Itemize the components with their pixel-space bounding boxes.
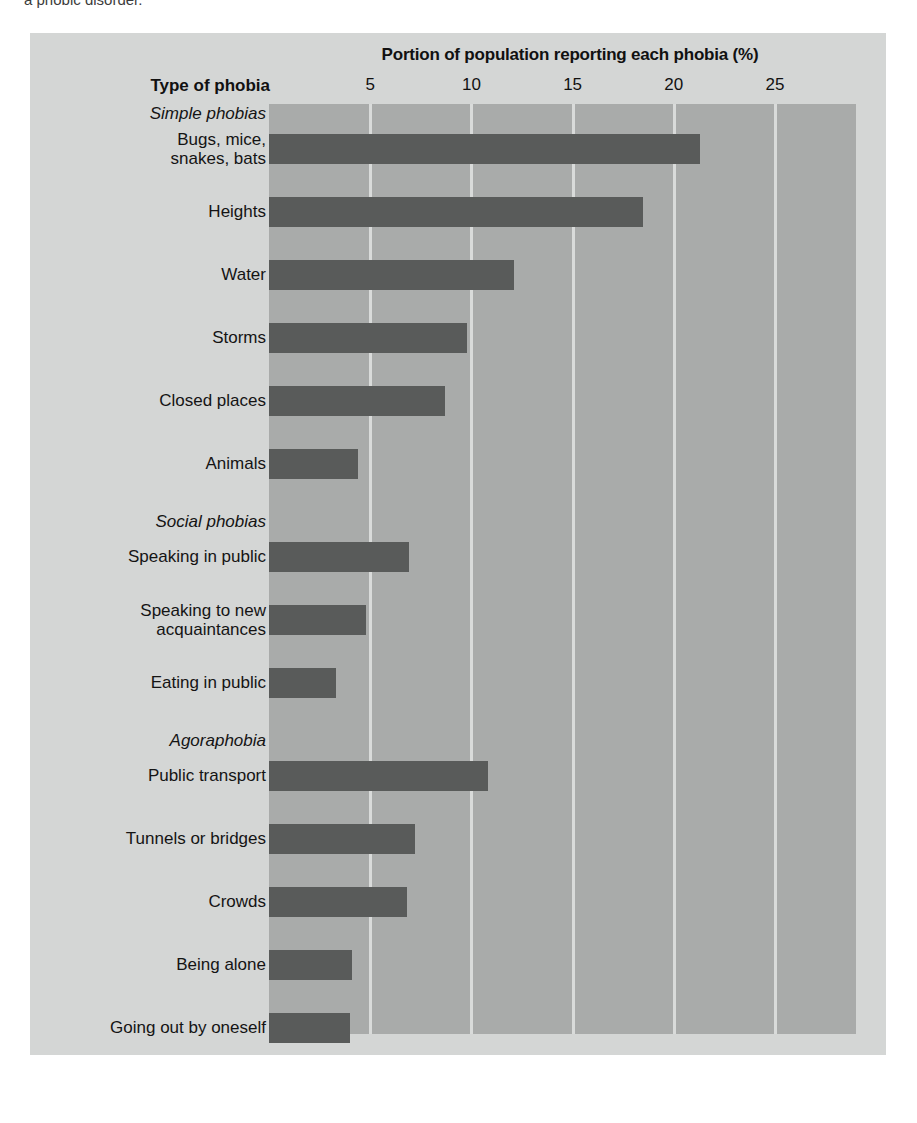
bar-row-label: Public transport xyxy=(6,766,266,785)
group-label-social-phobias: Social phobias xyxy=(6,512,266,532)
bar xyxy=(269,605,366,635)
bar-row: Being alone xyxy=(30,950,886,980)
x-axis-tick-labels: 510152025 xyxy=(30,75,886,97)
bar-row-label: Water xyxy=(6,265,266,284)
x-tick-label-25: 25 xyxy=(766,75,785,95)
chart-title: Portion of population reporting each pho… xyxy=(270,45,870,65)
x-tick-label-10: 10 xyxy=(462,75,481,95)
bar-row-label: Eating in public xyxy=(6,673,266,692)
page-top-cropped-text: a phobic disorder. xyxy=(0,0,917,14)
group-heading-row: Social phobias xyxy=(30,512,886,534)
bar-row-label: Going out by oneself xyxy=(6,1018,266,1037)
bar-row: Closed places xyxy=(30,386,886,416)
bar-row: Crowds xyxy=(30,887,886,917)
bar-row: Bugs, mice, snakes, bats xyxy=(30,134,886,164)
bar-row-label: Crowds xyxy=(6,892,266,911)
x-tick-label-5: 5 xyxy=(365,75,374,95)
bar xyxy=(269,386,445,416)
bar xyxy=(269,134,700,164)
bar-row: Speaking to new acquaintances xyxy=(30,605,886,635)
bar-row: Heights xyxy=(30,197,886,227)
bar-row-label: Bugs, mice, snakes, bats xyxy=(6,130,266,168)
bar xyxy=(269,260,514,290)
bar xyxy=(269,761,488,791)
bar-row-label: Animals xyxy=(6,454,266,473)
bar-row-label: Tunnels or bridges xyxy=(6,829,266,848)
bar xyxy=(269,197,643,227)
bar-row: Animals xyxy=(30,449,886,479)
bar-rows-container: Simple phobiasBugs, mice, snakes, batsHe… xyxy=(30,104,886,1034)
bar-row: Water xyxy=(30,260,886,290)
bar xyxy=(269,668,336,698)
x-tick-label-20: 20 xyxy=(664,75,683,95)
bar xyxy=(269,824,415,854)
bar-row-label: Storms xyxy=(6,328,266,347)
bar xyxy=(269,950,352,980)
group-heading-row: Agoraphobia xyxy=(30,731,886,753)
bar-row: Going out by oneself xyxy=(30,1013,886,1043)
bar-row: Public transport xyxy=(30,761,886,791)
bar xyxy=(269,542,409,572)
bar-row: Storms xyxy=(30,323,886,353)
bar-row-label: Speaking in public xyxy=(6,547,266,566)
group-label-simple-phobias: Simple phobias xyxy=(6,104,266,124)
bar-row-label: Being alone xyxy=(6,955,266,974)
bar-row: Speaking in public xyxy=(30,542,886,572)
bar-row: Tunnels or bridges xyxy=(30,824,886,854)
bar xyxy=(269,449,358,479)
bar xyxy=(269,323,467,353)
bar xyxy=(269,1013,350,1043)
bar xyxy=(269,887,407,917)
bar-row-label: Heights xyxy=(6,202,266,221)
group-heading-row: Simple phobias xyxy=(30,104,886,126)
top-text-fragment-left: a phobic disorder. xyxy=(24,0,142,7)
chart-figure-panel: Portion of population reporting each pho… xyxy=(30,33,886,1055)
group-label-agoraphobia: Agoraphobia xyxy=(6,731,266,751)
x-tick-label-15: 15 xyxy=(563,75,582,95)
bar-row-label: Closed places xyxy=(6,391,266,410)
bar-row: Eating in public xyxy=(30,668,886,698)
bar-row-label: Speaking to new acquaintances xyxy=(6,601,266,639)
